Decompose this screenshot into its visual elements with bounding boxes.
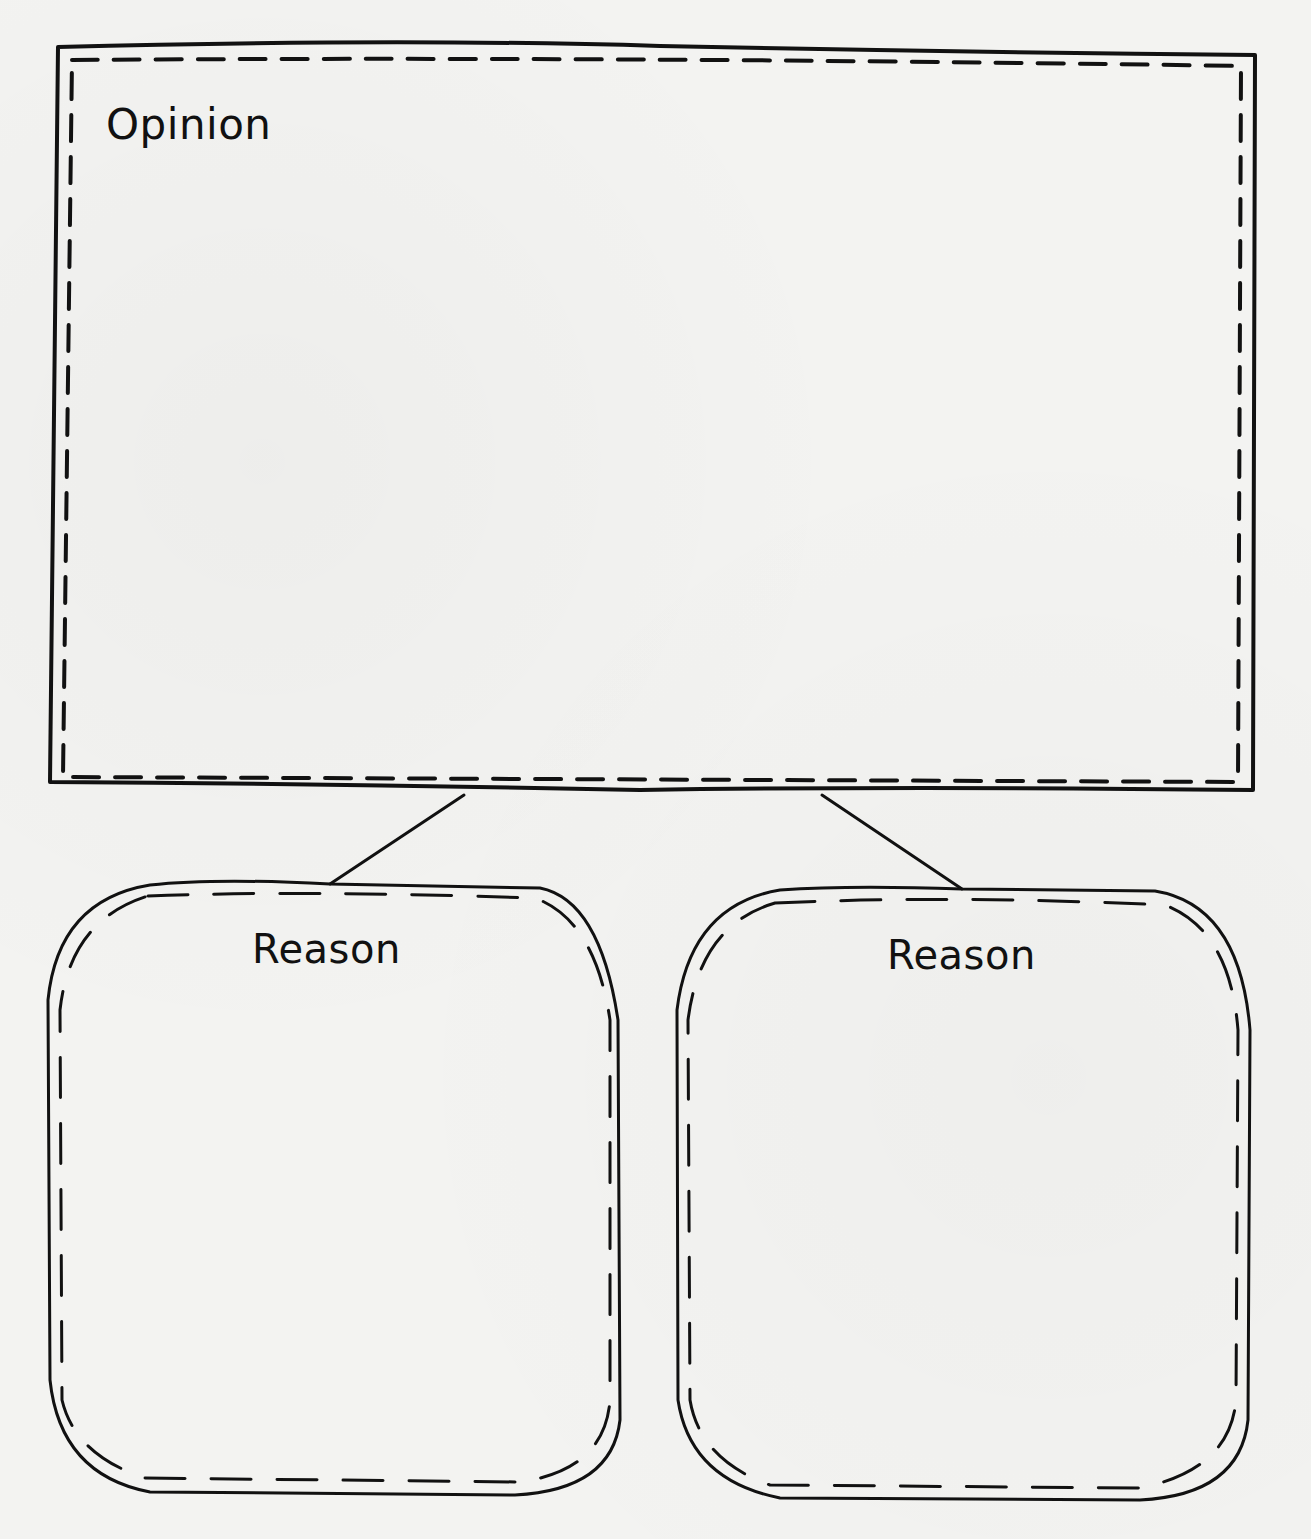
reason-writing-area-right[interactable] [710,995,1230,1475]
reason-label-left: Reason [252,926,401,972]
reason-writing-area-left[interactable] [80,990,600,1470]
connector-line-left [330,795,464,884]
opinion-label: Opinion [106,100,272,149]
opinion-writing-area[interactable] [80,160,1220,750]
reason-label-right: Reason [887,932,1036,978]
connector-line-right [822,795,962,889]
